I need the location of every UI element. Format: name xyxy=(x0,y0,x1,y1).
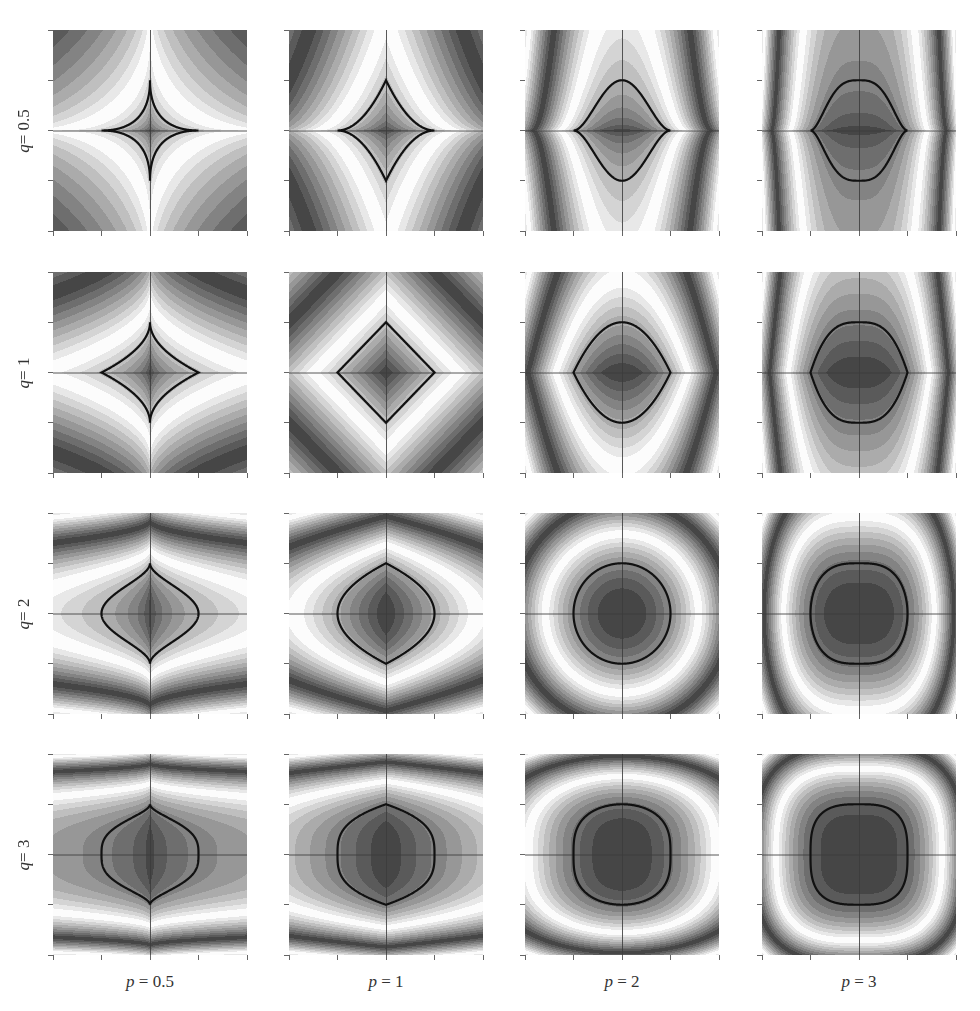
x-tick xyxy=(573,955,574,960)
y-tick xyxy=(520,513,525,514)
x-tick xyxy=(198,231,199,236)
x-tick xyxy=(247,231,248,236)
x-tick xyxy=(859,955,860,960)
y-tick xyxy=(757,955,762,956)
contour-panel xyxy=(53,30,247,231)
y-tick xyxy=(520,130,525,131)
x-tick xyxy=(289,231,290,236)
contour-panel xyxy=(762,30,956,231)
col-label-p: p = 1 xyxy=(289,972,483,992)
y-tick xyxy=(757,854,762,855)
x-tick xyxy=(810,714,811,719)
y-tick xyxy=(48,904,53,905)
x-tick xyxy=(434,714,435,719)
x-tick xyxy=(762,473,763,478)
x-tick xyxy=(289,955,290,960)
x-tick xyxy=(525,231,526,236)
x-tick xyxy=(622,473,623,478)
x-tick xyxy=(483,955,484,960)
y-tick xyxy=(284,663,289,664)
row-label-q: q = 2 xyxy=(14,554,34,674)
y-tick xyxy=(284,613,289,614)
heatmap-canvas xyxy=(762,513,956,714)
heatmap-canvas xyxy=(525,513,719,714)
y-tick xyxy=(48,714,53,715)
y-tick xyxy=(757,804,762,805)
contour-panel xyxy=(289,272,483,473)
x-tick xyxy=(762,955,763,960)
x-tick xyxy=(670,231,671,236)
contour-panel xyxy=(762,272,956,473)
x-tick xyxy=(337,473,338,478)
y-tick xyxy=(284,422,289,423)
x-tick xyxy=(810,473,811,478)
y-tick xyxy=(48,422,53,423)
x-tick xyxy=(719,231,720,236)
y-tick xyxy=(757,130,762,131)
col-label-var: p xyxy=(841,972,850,991)
heatmap-canvas xyxy=(53,30,247,231)
y-tick xyxy=(48,513,53,514)
row-label-var: q xyxy=(14,620,33,629)
y-tick xyxy=(284,714,289,715)
x-tick xyxy=(670,473,671,478)
x-tick xyxy=(289,714,290,719)
x-tick xyxy=(907,714,908,719)
y-tick xyxy=(284,272,289,273)
x-tick xyxy=(859,231,860,236)
x-tick xyxy=(622,231,623,236)
col-label-var: p xyxy=(126,972,135,991)
y-tick xyxy=(757,322,762,323)
x-tick xyxy=(53,955,54,960)
x-tick xyxy=(810,955,811,960)
contour-panel xyxy=(289,754,483,955)
x-tick xyxy=(198,955,199,960)
row-label-var: q xyxy=(14,861,33,870)
y-tick xyxy=(757,563,762,564)
x-tick xyxy=(762,714,763,719)
row-label-text: q = 1 xyxy=(14,357,34,388)
x-tick xyxy=(483,473,484,478)
x-tick xyxy=(150,473,151,478)
x-tick xyxy=(101,231,102,236)
x-tick xyxy=(101,955,102,960)
y-tick xyxy=(284,322,289,323)
y-tick xyxy=(520,473,525,474)
row-label-var: q xyxy=(14,379,33,388)
y-tick xyxy=(757,372,762,373)
row-label-value: = 0.5 xyxy=(14,109,34,144)
x-tick xyxy=(386,714,387,719)
col-label-p: p = 2 xyxy=(525,972,719,992)
x-tick xyxy=(198,714,199,719)
x-tick xyxy=(719,714,720,719)
y-tick xyxy=(520,372,525,373)
x-tick xyxy=(150,231,151,236)
y-tick xyxy=(757,904,762,905)
y-tick xyxy=(284,80,289,81)
heatmap-canvas xyxy=(53,513,247,714)
contour-panel xyxy=(53,272,247,473)
x-tick xyxy=(907,231,908,236)
x-tick xyxy=(53,473,54,478)
row-label-value: = 2 xyxy=(14,598,34,620)
col-label-var: p xyxy=(604,972,613,991)
heatmap-canvas xyxy=(289,513,483,714)
heatmap-canvas xyxy=(289,754,483,955)
y-tick xyxy=(520,272,525,273)
row-label-text: q = 3 xyxy=(14,839,34,870)
x-tick xyxy=(956,231,957,236)
x-tick xyxy=(337,231,338,236)
y-tick xyxy=(520,663,525,664)
x-tick xyxy=(101,714,102,719)
y-tick xyxy=(284,130,289,131)
heatmap-canvas xyxy=(53,272,247,473)
col-label-value: = 2 xyxy=(613,972,640,991)
y-tick xyxy=(520,804,525,805)
y-tick xyxy=(757,473,762,474)
row-label-text: q = 2 xyxy=(14,598,34,629)
heatmap-canvas xyxy=(289,30,483,231)
contour-panel xyxy=(525,754,719,955)
contour-panel xyxy=(525,30,719,231)
x-tick xyxy=(386,473,387,478)
row-label-var: q xyxy=(14,144,33,153)
